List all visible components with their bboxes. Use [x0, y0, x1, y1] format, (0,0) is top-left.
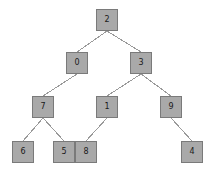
tree-edge-n3-n9 — [141, 74, 171, 96]
tree-edge-n2-n3 — [107, 31, 141, 52]
tree-edge-n0-n7 — [43, 74, 77, 96]
tree-node-label: 7 — [40, 103, 45, 111]
tree-node-7[interactable]: 7 — [32, 96, 54, 118]
tree-node-label: 9 — [168, 103, 173, 111]
tree-node-6[interactable]: 6 — [12, 141, 34, 163]
tree-node-0[interactable]: 0 — [66, 52, 88, 74]
tree-node-label: 3 — [138, 59, 143, 67]
tree-node-label: 8 — [83, 148, 88, 156]
tree-node-4[interactable]: 4 — [181, 141, 203, 163]
tree-node-label: 4 — [189, 148, 194, 156]
tree-node-2[interactable]: 2 — [96, 9, 118, 31]
tree-node-5[interactable]: 5 — [53, 141, 75, 163]
tree-diagram-canvas: 2037196584 — [0, 0, 213, 172]
tree-node-3[interactable]: 3 — [130, 52, 152, 74]
tree-node-label: 5 — [61, 148, 66, 156]
tree-edge-n7-n5 — [43, 118, 64, 141]
tree-node-label: 0 — [74, 59, 79, 67]
tree-edge-n9-n4 — [171, 118, 192, 141]
tree-node-8[interactable]: 8 — [75, 141, 97, 163]
tree-edge-n1-n8 — [86, 118, 107, 141]
tree-node-label: 2 — [104, 16, 109, 24]
tree-node-9[interactable]: 9 — [160, 96, 182, 118]
tree-node-label: 1 — [104, 103, 109, 111]
tree-edge-n3-n1 — [107, 74, 141, 96]
tree-edge-n7-n6 — [23, 118, 43, 141]
tree-node-1[interactable]: 1 — [96, 96, 118, 118]
tree-node-label: 6 — [20, 148, 25, 156]
tree-edge-n2-n0 — [77, 31, 107, 52]
